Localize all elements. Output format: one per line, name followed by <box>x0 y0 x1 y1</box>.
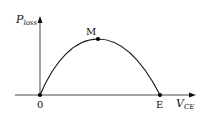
y-axis-label: Ploss <box>15 13 37 27</box>
y-axis <box>38 16 43 95</box>
loss-curve <box>40 39 160 95</box>
origin-label: 0 <box>37 99 43 110</box>
power-loss-diagram: Ploss VCE 0 M E <box>0 0 205 118</box>
x-axis-label: VCE <box>176 97 194 111</box>
max-label: M <box>86 26 96 37</box>
end-point <box>158 93 162 97</box>
end-label: E <box>156 99 163 110</box>
max-point <box>96 37 100 41</box>
y-axis-arrow-icon <box>38 16 43 23</box>
x-axis-arrow-icon <box>189 93 196 98</box>
origin-point <box>38 93 42 97</box>
x-axis <box>15 93 196 98</box>
